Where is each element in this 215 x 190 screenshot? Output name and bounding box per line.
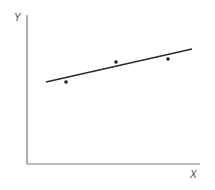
fit-line <box>46 49 192 82</box>
data-point <box>64 80 68 84</box>
data-point <box>114 60 118 64</box>
data-points <box>64 57 170 84</box>
diagram-canvas <box>0 0 215 190</box>
data-point <box>166 57 170 61</box>
x-axis-label: X <box>190 169 197 180</box>
y-axis-label: Y <box>14 12 21 23</box>
